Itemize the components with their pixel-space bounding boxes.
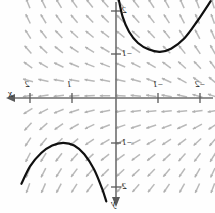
- y-axis-tick-label: −1: [122, 138, 133, 147]
- x-axis-tick-label: −2: [195, 80, 206, 89]
- slope-mark-head-icon: [131, 110, 134, 113]
- y-axis-tick-label: 2: [122, 6, 127, 15]
- slope-mark-head-icon: [84, 94, 87, 97]
- x-axis-tick-label: −1: [153, 80, 164, 89]
- plot-canvas: [0, 0, 215, 213]
- x-axis-label: x: [8, 89, 12, 99]
- y-axis-tick-label: 2: [122, 182, 127, 191]
- y-axis-label: y: [111, 199, 115, 209]
- x-axis-tick-label: 1: [67, 80, 72, 89]
- slope-field-layer: [23, 0, 215, 193]
- solution-curve-upper-right: [118, 0, 210, 52]
- slope-mark-head-icon: [161, 110, 164, 113]
- slope-field-figure: 21−1−22−1−12 x y: [0, 0, 215, 213]
- x-axis-tick-label: 2: [25, 80, 30, 89]
- solution-curve-lower-left: [21, 143, 106, 202]
- y-axis-tick-label: −1: [122, 49, 133, 58]
- slope-mark-head-icon: [131, 94, 134, 97]
- slope-mark-head-icon: [100, 94, 103, 97]
